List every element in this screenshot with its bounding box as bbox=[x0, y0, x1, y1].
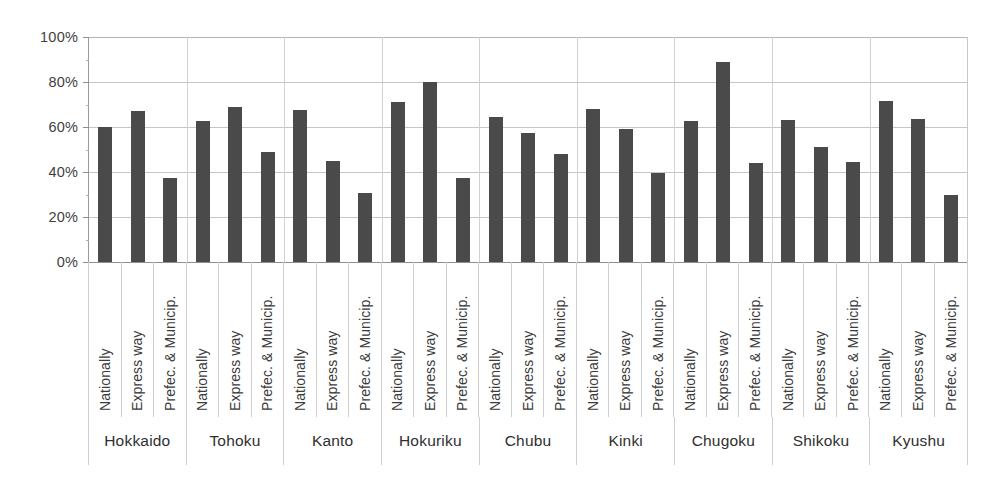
bar-group bbox=[674, 37, 772, 262]
y-axis-labels: 100%80%60%40%20%0% bbox=[0, 37, 78, 262]
bar-slot bbox=[382, 37, 415, 262]
bar-group bbox=[382, 37, 480, 262]
region-label-band: HokkaidoTohokuKantoHokurikuChubuKinkiChu… bbox=[88, 417, 968, 465]
bar-slot bbox=[284, 37, 317, 262]
series-label: Prefec. & Municip. bbox=[943, 296, 959, 411]
y-axis-tick-label: 60% bbox=[0, 119, 78, 135]
series-label-cell: Nationally bbox=[674, 262, 707, 417]
bar-slot bbox=[414, 37, 447, 262]
series-label-group: NationallyExpress wayPrefec. & Municip. bbox=[284, 262, 382, 417]
region-label: Hokuriku bbox=[382, 417, 480, 465]
bar-slot bbox=[935, 37, 968, 262]
bar bbox=[944, 195, 958, 263]
bar bbox=[489, 117, 503, 262]
series-label: Nationally bbox=[877, 349, 893, 411]
series-label-cell: Prefec. & Municip. bbox=[544, 262, 577, 417]
series-label-cell: Express way bbox=[902, 262, 935, 417]
bar-slot bbox=[870, 37, 903, 262]
series-label-cell: Prefec. & Municip. bbox=[349, 262, 382, 417]
bar-slot bbox=[544, 37, 577, 262]
bar bbox=[98, 127, 112, 262]
series-label-cell: Nationally bbox=[772, 262, 805, 417]
bar-slot bbox=[739, 37, 772, 262]
bar bbox=[781, 120, 795, 262]
series-label-cell: Nationally bbox=[479, 262, 512, 417]
bar-slot bbox=[447, 37, 480, 262]
bar bbox=[586, 109, 600, 262]
series-label-cell: Express way bbox=[219, 262, 252, 417]
bar-slot bbox=[349, 37, 382, 262]
bar-slot bbox=[187, 37, 220, 262]
series-label: Prefec. & Municip. bbox=[357, 296, 373, 411]
series-label: Express way bbox=[910, 331, 926, 411]
bar bbox=[846, 162, 860, 262]
region-label: Chubu bbox=[480, 417, 578, 465]
bar-group bbox=[577, 37, 675, 262]
bar-slot bbox=[252, 37, 285, 262]
bar-slot bbox=[902, 37, 935, 262]
series-label: Nationally bbox=[780, 349, 796, 411]
series-label-group: NationallyExpress wayPrefec. & Municip. bbox=[577, 262, 675, 417]
bar bbox=[261, 152, 275, 262]
series-label: Express way bbox=[812, 331, 828, 411]
bar-group bbox=[187, 37, 285, 262]
series-label-group: NationallyExpress wayPrefec. & Municip. bbox=[870, 262, 968, 417]
bar-group bbox=[772, 37, 870, 262]
region-label: Hokkaido bbox=[89, 417, 187, 465]
bar bbox=[814, 147, 828, 262]
series-label: Nationally bbox=[389, 349, 405, 411]
bar bbox=[911, 119, 925, 262]
series-label: Express way bbox=[324, 331, 340, 411]
bar bbox=[716, 62, 730, 262]
bar-group bbox=[479, 37, 577, 262]
series-label-group: NationallyExpress wayPrefec. & Municip. bbox=[89, 262, 187, 417]
bar-slot bbox=[479, 37, 512, 262]
y-axis-tick-label: 40% bbox=[0, 164, 78, 180]
bar-slot bbox=[577, 37, 610, 262]
bar-slot bbox=[609, 37, 642, 262]
series-label-cell: Nationally bbox=[284, 262, 317, 417]
series-label-cell: Prefec. & Municip. bbox=[154, 262, 187, 417]
series-label: Prefec. & Municip. bbox=[552, 296, 568, 411]
bar bbox=[749, 163, 763, 262]
series-label-cell: Nationally bbox=[382, 262, 415, 417]
bar-slot bbox=[154, 37, 187, 262]
region-label: Chugoku bbox=[675, 417, 773, 465]
bar-slot bbox=[837, 37, 870, 262]
bar-slot bbox=[804, 37, 837, 262]
bar-slot bbox=[512, 37, 545, 262]
bar bbox=[391, 102, 405, 262]
series-label-cell: Prefec. & Municip. bbox=[739, 262, 772, 417]
bar bbox=[651, 173, 665, 262]
bar-slot bbox=[317, 37, 350, 262]
series-label-cell: Express way bbox=[317, 262, 350, 417]
y-axis-tick-label: 80% bbox=[0, 74, 78, 90]
bar-group bbox=[89, 37, 187, 262]
series-label: Prefec. & Municip. bbox=[845, 296, 861, 411]
series-label-group: NationallyExpress wayPrefec. & Municip. bbox=[382, 262, 480, 417]
series-label: Prefec. & Municip. bbox=[747, 296, 763, 411]
series-label-cell: Express way bbox=[804, 262, 837, 417]
series-label: Nationally bbox=[292, 349, 308, 411]
bar bbox=[293, 110, 307, 262]
series-label: Express way bbox=[617, 331, 633, 411]
bar bbox=[554, 154, 568, 262]
series-label-group: NationallyExpress wayPrefec. & Municip. bbox=[772, 262, 870, 417]
bar-chart: 100%80%60%40%20%0% NationallyExpress way… bbox=[0, 0, 999, 487]
series-label: Nationally bbox=[682, 349, 698, 411]
series-label-cell: Express way bbox=[414, 262, 447, 417]
series-label: Nationally bbox=[487, 349, 503, 411]
y-axis-tick-label: 20% bbox=[0, 209, 78, 225]
series-label-cell: Prefec. & Municip. bbox=[447, 262, 480, 417]
bar-slot bbox=[674, 37, 707, 262]
bar-group bbox=[870, 37, 968, 262]
plot-area bbox=[88, 37, 968, 262]
region-label: Shikoku bbox=[773, 417, 871, 465]
series-label: Express way bbox=[520, 331, 536, 411]
series-label: Nationally bbox=[585, 349, 601, 411]
bar bbox=[423, 82, 437, 262]
bar bbox=[684, 121, 698, 262]
bar bbox=[456, 178, 470, 262]
series-label-cell: Nationally bbox=[187, 262, 220, 417]
series-label: Prefec. & Municip. bbox=[259, 296, 275, 411]
